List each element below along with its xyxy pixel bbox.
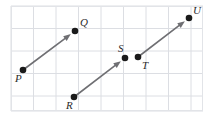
point-q — [72, 28, 79, 35]
point-label-t: T — [142, 60, 148, 71]
vector-TU — [138, 21, 185, 57]
point-label-u: U — [193, 5, 201, 16]
point-label-q: Q — [80, 17, 88, 28]
point-u — [186, 15, 193, 22]
point-t — [135, 54, 142, 61]
point-label-s: S — [118, 43, 124, 54]
vector-shaft — [74, 64, 117, 97]
point-s — [122, 55, 129, 62]
point-label-r: R — [66, 100, 73, 111]
vector-diagram-figure: PQRSTU — [0, 0, 209, 119]
vector-shaft — [138, 24, 181, 57]
point-label-p: P — [15, 73, 22, 84]
vector-shaft — [23, 37, 67, 70]
vector-PQ — [23, 34, 71, 70]
vector-RS — [74, 61, 121, 97]
vectors-layer — [0, 0, 209, 119]
